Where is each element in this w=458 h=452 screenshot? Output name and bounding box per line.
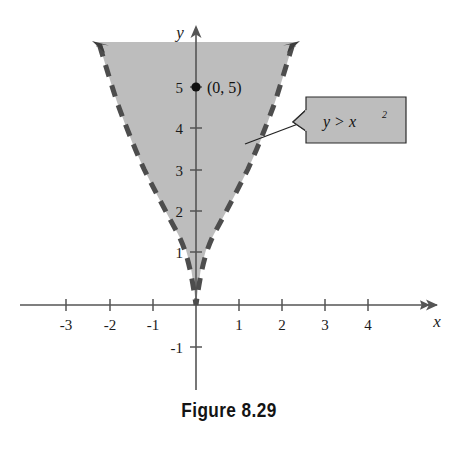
- y-tick-label-3: 3: [176, 163, 184, 179]
- x-tick-label-neg3: -3: [60, 317, 73, 333]
- callout-expression-exponent: 2: [382, 109, 387, 120]
- figure-container: -3 -2 -1 1 2 3 4 5 4 3 2 1 -1 y x (0, 5): [0, 0, 458, 452]
- x-tick-label-2: 2: [278, 317, 286, 333]
- y-axis-label: y: [174, 23, 184, 42]
- point-label-0-5: (0, 5): [207, 79, 242, 97]
- y-tick-label-2: 2: [176, 204, 184, 220]
- y-tick-label-neg1: -1: [171, 340, 184, 356]
- y-tick-label-5: 5: [176, 80, 184, 96]
- x-axis: [20, 300, 438, 311]
- figure-caption: Figure 8.29: [41, 398, 417, 422]
- x-tick-label-neg2: -2: [104, 317, 117, 333]
- callout-expression-base: y > x: [321, 113, 356, 131]
- point-marker-0-5: [191, 82, 200, 91]
- x-axis-label: x: [432, 312, 441, 331]
- inequality-graph: -3 -2 -1 1 2 3 4 5 4 3 2 1 -1 y x (0, 5): [0, 0, 458, 452]
- x-tick-label-3: 3: [321, 317, 329, 333]
- x-tick-label-1: 1: [235, 317, 243, 333]
- y-tick-label-4: 4: [176, 121, 184, 137]
- x-tick-label-4: 4: [364, 317, 372, 333]
- x-tick-label-neg1: -1: [147, 317, 160, 333]
